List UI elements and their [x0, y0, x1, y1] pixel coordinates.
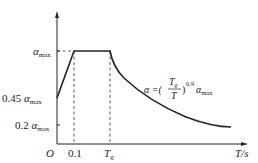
svg-text:): ) [182, 84, 185, 96]
svg-text:αmax: αmax [196, 84, 213, 96]
svg-text:Tg: Tg [169, 76, 178, 88]
x-tick-labels: O 0.1 Tg T/s [46, 147, 248, 161]
svg-text:0.2 αmax: 0.2 αmax [15, 119, 50, 133]
x-axis-label: T/s [235, 147, 248, 159]
guides [57, 51, 110, 144]
svg-text:α =(: α =( [144, 84, 162, 96]
seismic-response-chart: αmax 0.45 αmax 0.2 αmax O 0.1 Tg T/s α =… [0, 0, 258, 163]
y-tick-labels: αmax 0.45 αmax 0.2 αmax [2, 45, 51, 133]
origin-label: O [46, 147, 54, 159]
svg-text:Tg: Tg [104, 147, 114, 161]
svg-text:αmax: αmax [33, 45, 51, 59]
svg-text:0.45 αmax: 0.45 αmax [2, 92, 42, 106]
formula-annotation: α =( Tg T ) 0.9 αmax [144, 76, 213, 101]
svg-text:0.9: 0.9 [186, 80, 194, 87]
y-axis-arrow-icon [55, 11, 59, 18]
xtick-01: 0.1 [68, 147, 82, 159]
svg-text:T: T [171, 90, 178, 101]
x-axis-arrow-icon [241, 142, 248, 146]
